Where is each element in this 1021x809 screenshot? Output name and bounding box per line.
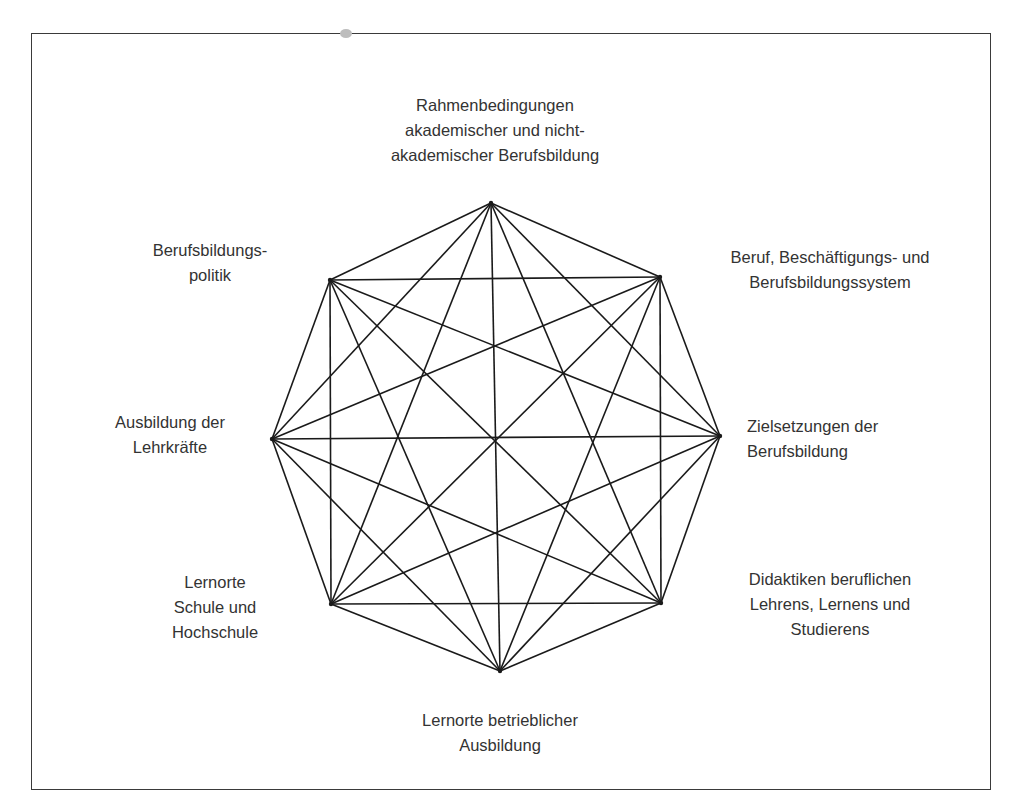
edge-rahmenbedingungen-zielsetzungen [491, 203, 720, 436]
node-label-rahmenbedingungen: Rahmenbedingungen akademischer und nicht… [360, 93, 630, 168]
edge-beruf-system-didaktiken [660, 277, 661, 603]
node-label-lernorte-betrieb: Lernorte betrieblicher Ausbildung [390, 708, 610, 758]
label-line: politik [125, 263, 295, 288]
label-line: Rahmenbedingungen [360, 93, 630, 118]
label-line: Lehrens, Lernens und [705, 592, 955, 617]
label-line: Berufsbildungssystem [690, 270, 970, 295]
label-line: Lehrkräfte [95, 435, 245, 460]
label-line: Beruf, Beschäftigungs- und [690, 245, 970, 270]
edge-beruf-system-lernorte-betrieb [500, 277, 660, 671]
node-label-didaktiken: Didaktiken beruflichen Lehrens, Lernens … [705, 567, 955, 642]
label-line: Ausbildung [390, 733, 610, 758]
edge-beruf-system-berufsbildungspolitik [330, 277, 660, 280]
edge-rahmenbedingungen-ausbildung-lehrkraefte [272, 203, 491, 439]
vertex-lernorte-schule [329, 602, 333, 606]
node-label-berufsbildungspolitik: Berufsbildungs- politik [125, 238, 295, 288]
vertex-zielsetzungen [718, 434, 722, 438]
vertex-berufsbildungspolitik [328, 278, 332, 282]
node-label-lernorte-schule: Lernorte Schule und Hochschule [145, 570, 285, 645]
label-line: Berufsbildung [747, 439, 947, 464]
edge-rahmenbedingungen-berufsbildungspolitik [330, 203, 491, 280]
node-label-ausbildung-lehrkraefte: Ausbildung der Lehrkräfte [95, 410, 245, 460]
vertex-lernorte-betrieb [498, 669, 502, 673]
label-line: Studierens [705, 617, 955, 642]
edge-beruf-system-zielsetzungen [660, 277, 720, 436]
edge-lernorte-schule-berufsbildungspolitik [330, 280, 331, 604]
edge-didaktiken-lernorte-schule [331, 603, 661, 604]
vertex-beruf-system [658, 275, 662, 279]
label-line: akademischer Berufsbildung [360, 143, 630, 168]
node-label-beruf-system: Beruf, Beschäftigungs- und Berufsbildung… [690, 245, 970, 295]
label-line: Schule und [145, 595, 285, 620]
label-line: Lernorte betrieblicher [390, 708, 610, 733]
label-line: Berufsbildungs- [125, 238, 295, 263]
label-line: Ausbildung der [95, 410, 245, 435]
edge-rahmenbedingungen-beruf-system [491, 203, 660, 277]
vertex-ausbildung-lehrkraefte [270, 437, 274, 441]
label-line: akademischer und nicht- [360, 118, 630, 143]
label-line: Hochschule [145, 620, 285, 645]
edge-lernorte-betrieb-ausbildung-lehrkraefte [272, 439, 500, 671]
label-line: Zielsetzungen der [747, 414, 947, 439]
node-label-zielsetzungen: Zielsetzungen der Berufsbildung [747, 414, 947, 464]
vertex-didaktiken [659, 601, 663, 605]
label-line: Lernorte [145, 570, 285, 595]
vertex-rahmenbedingungen [489, 201, 493, 205]
edges-group [272, 203, 720, 671]
label-line: Didaktiken beruflichen [705, 567, 955, 592]
edge-ausbildung-lehrkraefte-berufsbildungspolitik [272, 280, 330, 439]
